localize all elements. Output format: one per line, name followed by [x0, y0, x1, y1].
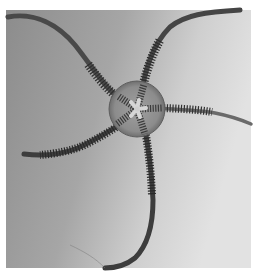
- photo-background: [6, 10, 251, 268]
- brittle-star-photo: [0, 0, 257, 271]
- central-disc: [109, 81, 165, 137]
